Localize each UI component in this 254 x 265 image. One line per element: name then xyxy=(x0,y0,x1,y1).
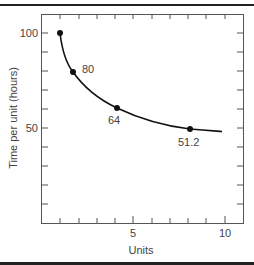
point-label-80: 80 xyxy=(82,63,94,75)
x-tick-label-10: 10 xyxy=(219,227,231,239)
data-point-1 xyxy=(57,30,63,36)
y-axis-title: Time per unit (hours) xyxy=(7,67,19,169)
data-point-4 xyxy=(114,105,120,111)
y-tick-label-50: 50 xyxy=(26,122,38,134)
y-tick-label-100: 100 xyxy=(20,27,38,39)
x-axis-title: Units xyxy=(128,244,154,256)
learning-curve-chart: 80 64 51.2 100 50 5 10 Units Time per un… xyxy=(0,0,254,265)
learning-curve-line xyxy=(60,33,222,132)
data-point-2 xyxy=(70,69,76,75)
x-tick-label-5: 5 xyxy=(130,227,136,239)
point-label-64: 64 xyxy=(108,114,120,126)
data-point-8 xyxy=(187,126,193,132)
point-label-51-2: 51.2 xyxy=(178,136,199,148)
